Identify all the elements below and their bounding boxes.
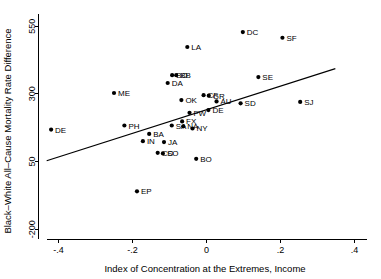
point-label-la: LA: [191, 43, 201, 52]
data-point-dc: [241, 30, 245, 34]
data-point-ph: [122, 123, 126, 127]
point-label-da: DA: [172, 79, 184, 88]
point-label-ja: JA: [168, 138, 178, 147]
fit-line: [47, 69, 336, 161]
data-point-me: [112, 91, 116, 95]
point-label-de: DE: [212, 106, 223, 115]
y-tick-label-0: -200: [27, 220, 37, 238]
data-point-de2: [49, 127, 53, 131]
y-tick-label-3: 550: [27, 19, 37, 34]
data-point-bb: [170, 73, 174, 77]
data-point-ba: [147, 132, 151, 136]
point-label-sf: SF: [286, 34, 296, 43]
regression-line: [47, 69, 336, 161]
data-points: [49, 30, 302, 193]
point-label-in: IN: [147, 137, 155, 146]
data-point-sd: [239, 101, 243, 105]
data-point-sf: [280, 36, 284, 40]
data-point-se: [256, 75, 260, 79]
scatter-plot-figure: -.4-.20.2.4-20050300550 DCSFLABOBBSEDAME…: [0, 0, 381, 279]
point-label-sj: SJ: [304, 98, 313, 107]
x-tick-label-2: 0: [204, 245, 209, 255]
point-labels: DCSFLABOBBSEDAMECFGROKAUSDSJDEFWFXPHSANA…: [55, 28, 313, 196]
data-point-in: [141, 139, 145, 143]
point-label-au: AU: [221, 97, 232, 106]
data-point-co: [156, 151, 160, 155]
plot-canvas: -.4-.20.2.4-20050300550 DCSFLABOBBSEDAME…: [0, 0, 381, 279]
data-point-ok: [179, 98, 183, 102]
point-label-fw: FW: [194, 109, 207, 118]
data-point-la: [185, 45, 189, 49]
y-tick-label-2: 300: [27, 86, 37, 101]
data-point-de: [206, 108, 210, 112]
point-label-so: SO: [167, 149, 179, 158]
y-tick-label-1: 50: [27, 157, 37, 167]
data-point-bo2: [194, 157, 198, 161]
y-axis-title: Black–White All–Cause Mortality Rate Dif…: [2, 28, 13, 233]
point-label-sd: SD: [245, 99, 256, 108]
point-label-de2: DE: [55, 126, 66, 135]
point-label-me: ME: [118, 89, 130, 98]
data-point-sa: [170, 123, 174, 127]
x-axis-title: Index of Concentration at the Extremes, …: [104, 263, 305, 274]
x-tick-label-0: -.4: [53, 245, 64, 255]
data-point-fw: [187, 111, 191, 115]
data-point-cf: [201, 93, 205, 97]
x-tick-label-4: .4: [351, 245, 359, 255]
data-point-sj: [298, 100, 302, 104]
point-label-ph: PH: [128, 122, 139, 131]
data-point-ep: [135, 189, 139, 193]
point-label-ny: NY: [196, 124, 208, 133]
data-point-da: [166, 81, 170, 85]
data-point-ja: [162, 140, 166, 144]
point-label-ok: OK: [185, 96, 197, 105]
point-label-sa: SA: [176, 122, 187, 131]
point-label-se: SE: [262, 73, 273, 82]
x-tick-label-3: .2: [277, 245, 285, 255]
x-tick-label-1: -.2: [127, 245, 138, 255]
axis-ticks: [35, 26, 355, 243]
point-label-ep: EP: [141, 187, 152, 196]
point-label-bo2: BO: [200, 155, 212, 164]
point-label-dc: DC: [247, 28, 259, 37]
tick-labels: -.4-.20.2.4-20050300550: [27, 19, 359, 256]
